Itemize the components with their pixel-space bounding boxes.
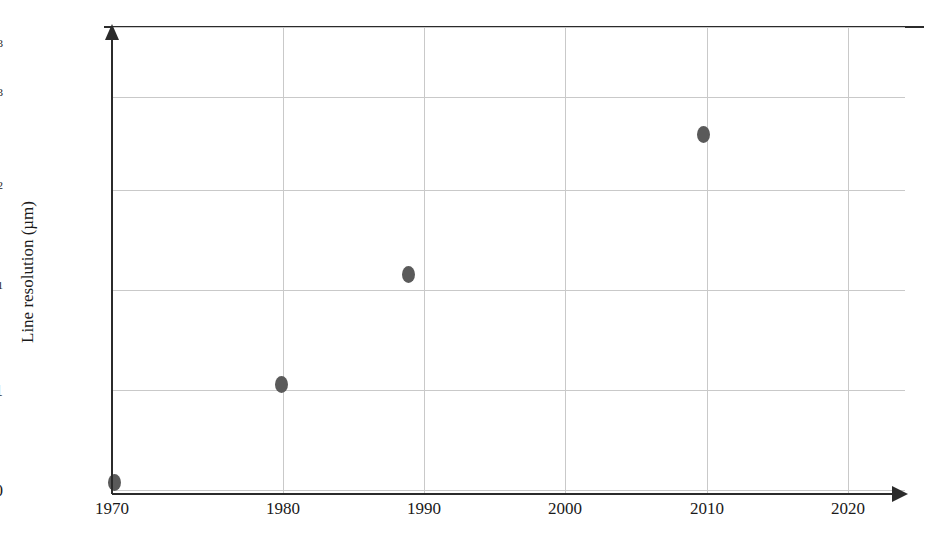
data-point-1970 [108, 474, 121, 491]
x-tick-label-2020: 2020 [831, 500, 865, 517]
y-axis-arrow-icon [105, 24, 119, 40]
y-axis-title: Line resolution (µm) [18, 92, 38, 452]
gridline-vertical-1990 [424, 27, 425, 494]
plot-area [112, 27, 905, 494]
y-tick-label-1e-1: 10–1 [0, 282, 3, 299]
y-tick-label-5e-4: 5 × 1043 [0, 40, 3, 57]
gridline-horizontal-1e-1 [112, 290, 905, 291]
y-tick-label-1e-3: 10–3 [0, 89, 3, 106]
data-point-1990 [402, 266, 415, 283]
x-axis-line [112, 493, 896, 495]
x-axis-arrow-icon [892, 486, 908, 502]
x-tick-label-2000: 2000 [548, 500, 582, 517]
y-tick-exponent-1e-2: –2 [0, 179, 3, 191]
gridline-horizontal-10 [112, 490, 905, 491]
gridline-vertical-1980 [283, 27, 284, 494]
y-tick-label-10: 10 [0, 482, 3, 499]
y-tick-exponent-5e-4: 43 [0, 37, 3, 49]
y-tick-exponent-1e-3: –3 [0, 86, 3, 98]
y-tick-mantissa-1: 1 [0, 381, 3, 400]
x-tick-label-2010: 2010 [690, 500, 724, 517]
x-tick-label-1980: 1980 [266, 500, 300, 517]
y-axis-tick-labels: 5 × 1043 10–3 10–2 10–1 1 10 [0, 0, 104, 544]
y-axis-line [111, 33, 113, 494]
y-tick-mantissa-10: 10 [0, 481, 3, 500]
gridline-horizontal-1e-3 [112, 97, 905, 98]
gridline-vertical-2000 [565, 27, 566, 494]
gridline-vertical-2020 [848, 27, 849, 494]
gridline-horizontal-5e-4 [112, 27, 905, 28]
y-tick-label-1: 1 [0, 382, 3, 399]
gridline-horizontal-1e-2 [112, 190, 905, 191]
y-tick-exponent-1e-1: –1 [0, 279, 3, 291]
x-tick-label-1970: 1970 [95, 500, 129, 517]
gridline-horizontal-1 [112, 390, 905, 391]
y-tick-label-1e-2: 10–2 [0, 182, 3, 199]
x-tick-label-1990: 1990 [407, 500, 441, 517]
chart-figure: 5 × 1043 10–3 10–2 10–1 1 10 1970 1980 1… [0, 0, 936, 544]
gridline-vertical-2010 [707, 27, 708, 494]
data-point-1981 [275, 376, 288, 393]
data-point-2010 [697, 126, 710, 143]
